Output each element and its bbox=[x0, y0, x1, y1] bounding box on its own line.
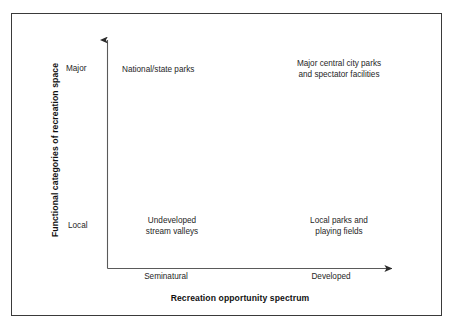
y-tick-label-local: Local bbox=[68, 221, 88, 232]
y-axis-title: Functional categories of recreation spac… bbox=[50, 63, 60, 237]
x-axis-title: Recreation opportunity spectrum bbox=[171, 293, 310, 303]
quadrant-label-major-seminatural: National/state parks bbox=[122, 64, 194, 75]
figure-root: Major Local Seminatural Developed Nation… bbox=[0, 0, 454, 327]
x-tick-label-seminatural: Seminatural bbox=[144, 272, 188, 283]
y-tick-label-major: Major bbox=[66, 64, 86, 75]
quadrant-label-local-developed: Local parks and playing fields bbox=[310, 215, 368, 237]
quadrant-label-major-developed: Major central city parks and spectator f… bbox=[297, 58, 381, 80]
x-tick-label-developed: Developed bbox=[311, 272, 350, 283]
quadrant-label-local-seminatural: Undeveloped stream valleys bbox=[146, 215, 198, 237]
